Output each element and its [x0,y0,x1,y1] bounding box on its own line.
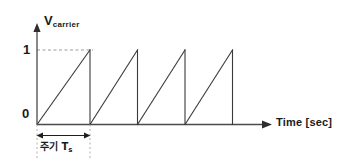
ramp-segment [138,50,186,125]
period-arrow-left-head-icon [37,132,44,138]
carrier-waveform-figure: Vcarrier Time [sec] 1 0 주기 Ts [0,0,342,164]
period-label-main: 주기 T [40,141,68,152]
period-arrow-right-head-icon [84,132,91,138]
ramp-segment [37,50,90,125]
y-axis-label: Vcarrier [44,14,80,27]
sawtooth-waveform [37,50,233,125]
ramp-segment [185,50,233,125]
y-axis-label-main: V [44,13,53,28]
y-axis-arrowhead-icon [33,23,40,32]
period-dimension-arrow [37,132,91,138]
y-axis-label-subscript: carrier [53,20,80,29]
x-axis-arrowhead-icon [262,121,272,129]
x-axis-label: Time [sec] [276,117,332,128]
period-label-subscript: s [68,146,72,154]
y-tick-label-one: 1 [23,43,30,56]
ramp-segment [90,50,138,125]
y-tick-label-zero: 0 [22,107,29,120]
period-annotation-label: 주기 Ts [40,142,72,152]
